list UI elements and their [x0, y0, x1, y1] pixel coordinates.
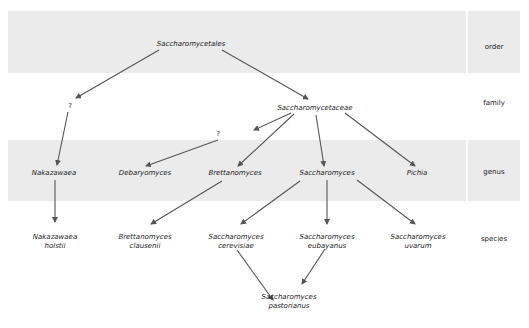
species-genus-name: Nakazawaea [33, 233, 77, 242]
node-brettanomyces-clausenii: Brettanomyces clausenii [118, 233, 171, 250]
species-epithet: clausenii [118, 241, 171, 250]
species-epithet: uvarum [390, 241, 445, 250]
species-genus-name: Saccharomyces [208, 233, 263, 242]
node-saccharomycetales: Saccharomycetales [157, 40, 225, 49]
node-debaryomyces: Debaryomyces [119, 169, 172, 178]
species-genus-name: Brettanomyces [118, 233, 171, 242]
node-saccharomyces-eubayanus: Saccharomyces eubayanus [299, 233, 354, 250]
node-unknown-family: ? [68, 102, 72, 110]
node-saccharomycetaceae: Saccharomycetaceae [277, 104, 352, 113]
edge-label-unknown: ? [216, 130, 220, 138]
node-saccharomyces-pastorianus: Saccharomyces pastorianus [261, 293, 316, 310]
species-epithet: eubayanus [299, 241, 354, 250]
species-epithet: cerevisiae [208, 241, 263, 250]
rank-label-order: order [485, 43, 504, 51]
species-genus-name: Saccharomyces [261, 293, 316, 302]
species-genus-name: Saccharomyces [299, 233, 354, 242]
species-genus-name: Saccharomyces [390, 233, 445, 242]
node-nakazawaea-holstii: Nakazawaea holstii [33, 233, 77, 250]
node-saccharomyces-cerevisiae: Saccharomyces cerevisiae [208, 233, 263, 250]
node-saccharomyces: Saccharomyces [299, 169, 354, 178]
species-epithet: pastorianus [261, 301, 316, 310]
rank-label-genus: genus [483, 168, 504, 176]
rank-label-family: family [483, 99, 505, 107]
node-pichia: Pichia [407, 169, 428, 178]
rank-label-species: species [481, 235, 507, 243]
node-saccharomyces-uvarum: Saccharomyces uvarum [390, 233, 445, 250]
node-nakazawaea: Nakazawaea [32, 169, 76, 178]
node-brettanomyces: Brettanomyces [208, 169, 261, 178]
species-epithet: holstii [33, 241, 77, 250]
arrows-layer [0, 0, 529, 328]
